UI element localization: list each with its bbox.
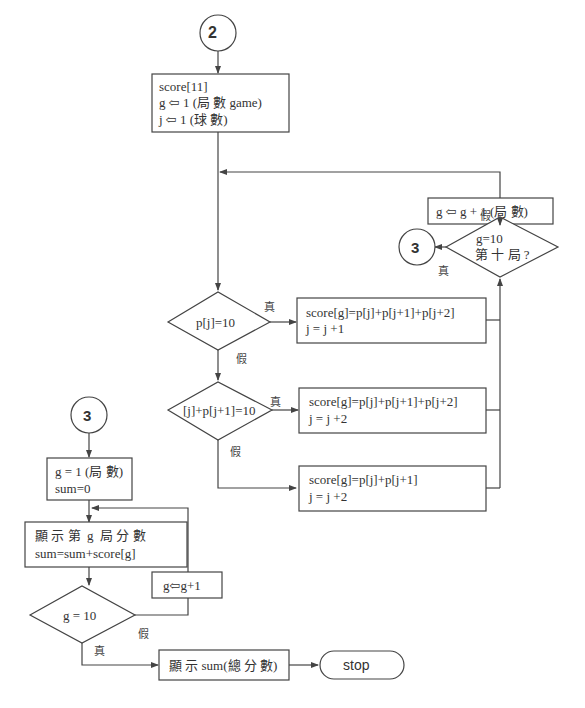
- decision4-label: g = 10: [63, 607, 96, 624]
- decision3-line1: g=10: [476, 230, 503, 247]
- connector-3-right-label: 3: [411, 239, 419, 256]
- sum-init-line2: sum=0: [55, 480, 91, 497]
- decision2-label: [j]+p[j+1]=10: [183, 402, 256, 419]
- connector-3-left-label: 3: [83, 407, 91, 424]
- decision4-true: 真: [94, 642, 105, 658]
- sum-init-line1: g = 1 (局 數): [55, 463, 123, 480]
- increment2-label: g⇦g+1: [163, 577, 201, 594]
- display-line2: sum=sum+score[g]: [35, 545, 136, 562]
- display-line1: 顯 示 第 g 局 分 數: [35, 527, 146, 544]
- decision2-true: 真: [270, 393, 281, 409]
- decision3-line2: 第 十 局 ?: [475, 246, 530, 263]
- connector-2-label: 2: [208, 24, 217, 41]
- process3-line2: j = j +2: [309, 488, 347, 505]
- process2-line2: j = j +2: [309, 410, 347, 427]
- init-line1: score[11]: [159, 78, 208, 95]
- process1-line1: score[g]=p[j]+p[j+1]+p[j+2]: [306, 304, 455, 321]
- flowchart-canvas: [0, 0, 585, 708]
- init-line3: j ⇦ 1 (球 數): [159, 111, 228, 128]
- decision3-true: 真: [438, 262, 449, 278]
- decision2-false: 假: [230, 443, 241, 459]
- stop-label: stop: [343, 657, 369, 674]
- init-line2: g ⇦ 1 (局 數 game): [159, 94, 262, 111]
- connector-2: [200, 15, 236, 51]
- decision3-false: 假: [480, 207, 491, 223]
- decision1-label: p[j]=10: [196, 314, 235, 331]
- decision4-false: 假: [138, 625, 149, 641]
- display-sum-label: 顯 示 sum(總 分 數): [169, 657, 277, 674]
- process3-line1: score[g]=p[j]+p[j+1]: [309, 471, 418, 488]
- decision1-true: 真: [264, 298, 275, 314]
- process1-line2: j = j +1: [306, 320, 344, 337]
- decision1-false: 假: [236, 350, 247, 366]
- process2-line1: score[g]=p[j]+p[j+1]+p[j+2]: [309, 393, 458, 410]
